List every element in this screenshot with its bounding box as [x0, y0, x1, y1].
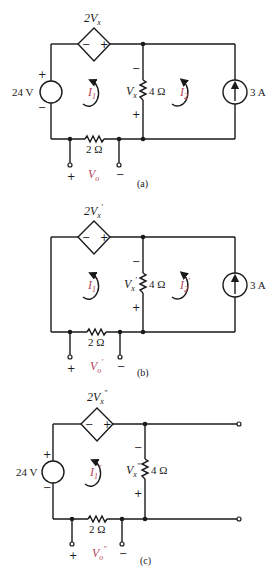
node-dot — [118, 330, 123, 335]
vx-label: Vx′ — [124, 276, 137, 293]
svg-text:+: + — [100, 232, 108, 243]
dep-source-label: 2Vx′ — [84, 203, 103, 220]
polarity-plus: + — [132, 302, 140, 313]
svg-text:+: + — [103, 419, 111, 430]
polarity-minus: − — [117, 361, 125, 372]
vx-label: Vx″ — [126, 462, 141, 479]
open-terminal-top — [237, 422, 241, 426]
resistor-icon — [87, 329, 106, 335]
polarity-minus: − — [43, 482, 51, 493]
vx-label: Vx — [126, 84, 137, 100]
node-dot — [143, 422, 148, 427]
node-dot — [143, 517, 148, 522]
polarity-plus: + — [38, 69, 46, 80]
svg-text:−: − — [85, 419, 93, 430]
output-terminal-plus — [68, 163, 72, 167]
dependent-voltage-source-icon: − + — [78, 28, 110, 61]
polarity-plus: + — [132, 109, 140, 120]
polarity-minus: − — [132, 63, 140, 74]
node-dot — [68, 330, 73, 335]
node-dot — [117, 137, 122, 142]
resistor-label: 4 Ω — [151, 464, 167, 476]
circuit-figure: − + 2Vx + − 24 V I1 − + Vx 4 Ω I2 3 A 2 … — [0, 0, 279, 567]
voltage-source-icon — [40, 81, 62, 103]
output-terminal-minus — [120, 542, 124, 546]
polarity-plus: + — [67, 363, 75, 374]
voltage-source-label: 24 V — [16, 466, 38, 478]
panel-caption: (c) — [140, 555, 151, 567]
resistor-label: 4 Ω — [149, 85, 165, 97]
mesh-current-label: I1 — [87, 85, 96, 101]
panel-caption: (b) — [137, 367, 149, 379]
resistor-label: 2 Ω — [88, 336, 104, 348]
wires-a — [51, 44, 235, 163]
node-dot — [120, 517, 125, 522]
open-terminal-bottom — [237, 517, 241, 521]
node-dot — [68, 137, 73, 142]
resistor-label: 4 Ω — [149, 278, 165, 290]
resistor-icon — [140, 273, 146, 293]
panel-c: − + 2Vx″ + − 24 V I1″ − + Vx″ 4 Ω 2 Ω + … — [16, 389, 241, 567]
output-voltage-label: Vo″ — [92, 545, 107, 562]
polarity-plus: + — [67, 171, 75, 182]
output-voltage-label: Vo — [88, 167, 99, 183]
polarity-plus: + — [69, 550, 77, 561]
dep-source-label: 2Vx — [84, 11, 101, 27]
output-terminal-plus — [70, 542, 74, 546]
node-dot — [141, 137, 146, 142]
resistor-icon — [88, 516, 107, 522]
panel-a: − + 2Vx + − 24 V I1 − + Vx 4 Ω I2 3 A 2 … — [12, 11, 266, 190]
polarity-minus: − — [119, 548, 127, 559]
panel-caption: (a) — [137, 178, 148, 190]
polarity-plus: + — [43, 449, 51, 460]
output-voltage-label: Vo′ — [90, 358, 103, 375]
node-dot — [70, 517, 75, 522]
polarity-minus: − — [116, 169, 124, 180]
wires-b — [51, 237, 235, 355]
polarity-plus: + — [134, 488, 142, 499]
resistor-label: 2 Ω — [89, 523, 105, 535]
current-source-label: 3 A — [250, 86, 266, 98]
resistor-icon — [85, 136, 104, 142]
node-dot — [141, 330, 146, 335]
current-source-icon — [223, 80, 247, 104]
node-dot — [141, 42, 146, 47]
dep-source-label: 2Vx″ — [87, 389, 108, 406]
resistor-icon — [142, 459, 148, 479]
current-source-icon — [223, 273, 247, 297]
output-terminal-minus — [118, 355, 122, 359]
resistor-label: 2 Ω — [86, 143, 102, 155]
voltage-source-label: 24 V — [12, 86, 34, 98]
node-dot — [141, 235, 146, 240]
mesh-current-label: I1′ — [87, 277, 98, 294]
svg-text:+: + — [100, 39, 108, 50]
polarity-minus: − — [134, 442, 142, 453]
dependent-voltage-source-icon: − + — [81, 408, 113, 441]
mesh-current-label: I2′ — [179, 277, 190, 294]
svg-text:−: − — [82, 232, 90, 243]
resistor-icon — [140, 80, 146, 100]
current-source-label: 3 A — [250, 279, 266, 291]
polarity-minus: − — [38, 102, 46, 113]
svg-text:−: − — [82, 39, 90, 50]
output-terminal-minus — [117, 163, 121, 167]
polarity-minus: − — [132, 256, 140, 267]
wires-c — [53, 424, 237, 542]
panel-b: − + 2Vx′ I1′ − + Vx′ 4 Ω I2′ 3 A 2 Ω + −… — [51, 203, 266, 379]
dependent-voltage-source-icon: − + — [78, 221, 110, 254]
output-terminal-plus — [68, 355, 72, 359]
voltage-source-icon — [42, 461, 64, 483]
